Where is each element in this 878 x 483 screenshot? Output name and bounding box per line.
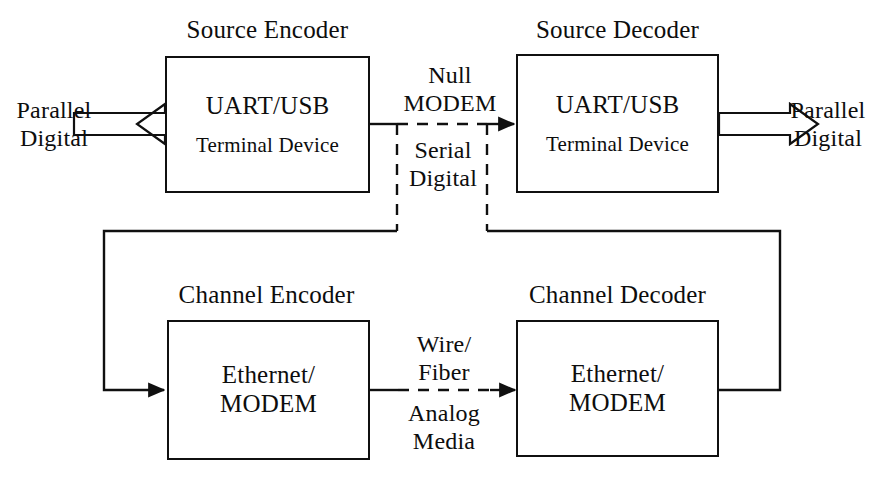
label-analog-media: Analog Media: [394, 399, 494, 455]
block-channel-decoder[interactable]: Ethernet/ MODEM: [516, 320, 719, 457]
block-source-decoder[interactable]: UART/USB Terminal Device: [516, 54, 719, 193]
label-parallel-digital-input-line2: Digital: [4, 124, 104, 152]
block-channel-encoder-line2: MODEM: [220, 390, 317, 418]
label-parallel-digital-input: Parallel Digital: [4, 96, 104, 152]
block-channel-decoder-line2: MODEM: [569, 389, 666, 417]
block-channel-decoder-line1: Ethernet/: [571, 360, 664, 388]
block-source-encoder-line1: UART/USB: [206, 92, 330, 120]
caption-source-encoder: Source Encoder: [165, 16, 370, 44]
caption-channel-encoder: Channel Encoder: [163, 281, 370, 309]
diagram-canvas: Source Encoder Source Decoder Channel En…: [0, 0, 878, 483]
label-analog-media-line2: Media: [394, 427, 494, 455]
label-null-modem-line1: Null: [392, 61, 508, 89]
block-source-decoder-line1: UART/USB: [556, 91, 680, 119]
label-null-modem-line2: MODEM: [392, 89, 508, 117]
label-parallel-digital-input-line1: Parallel: [4, 96, 104, 124]
label-wire-fiber-line1: Wire/: [398, 330, 490, 358]
label-parallel-digital-output-line1: Parallel: [780, 96, 876, 124]
block-source-encoder[interactable]: UART/USB Terminal Device: [165, 56, 370, 193]
label-wire-fiber: Wire/ Fiber: [398, 330, 490, 386]
label-serial-digital-line2: Digital: [398, 164, 488, 192]
label-serial-digital: Serial Digital: [398, 136, 488, 192]
caption-channel-decoder: Channel Decoder: [516, 281, 719, 309]
label-parallel-digital-output: Parallel Digital: [780, 96, 876, 152]
label-parallel-digital-output-line2: Digital: [780, 124, 876, 152]
label-null-modem: Null MODEM: [392, 61, 508, 117]
block-channel-encoder-line1: Ethernet/: [222, 361, 315, 389]
label-analog-media-line1: Analog: [394, 399, 494, 427]
caption-source-decoder: Source Decoder: [516, 16, 719, 44]
label-wire-fiber-line2: Fiber: [398, 358, 490, 386]
label-serial-digital-line1: Serial: [398, 136, 488, 164]
block-channel-encoder[interactable]: Ethernet/ MODEM: [167, 320, 370, 460]
block-source-decoder-line2: Terminal Device: [546, 133, 689, 157]
block-source-encoder-line2: Terminal Device: [196, 134, 339, 158]
